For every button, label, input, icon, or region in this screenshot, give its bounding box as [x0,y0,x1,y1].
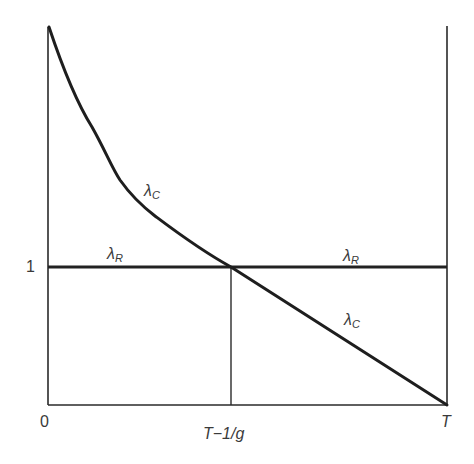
lambda-symbol: λ [144,182,152,199]
x-tick-end: T [441,414,451,430]
diagram-canvas [0,0,474,464]
subscript-r: R [115,252,123,264]
lambda-symbol: λ [344,311,352,328]
subscript-c: C [152,189,160,201]
lambda-r-label-right: λR [343,248,359,266]
lambda-c-curve [49,27,447,405]
lambda-c-label-lower: λC [344,312,360,330]
lambda-symbol: λ [107,245,115,262]
x-tick-zero: 0 [40,414,49,430]
lambda-symbol: λ [343,247,351,264]
lambda-r-label-left: λR [107,246,123,264]
x-tick-threshold: T−1/g [203,426,244,442]
subscript-c: C [352,318,360,330]
lambda-c-label-upper: λC [144,183,160,201]
subscript-r: R [351,254,359,266]
y-tick-one: 1 [26,259,35,275]
